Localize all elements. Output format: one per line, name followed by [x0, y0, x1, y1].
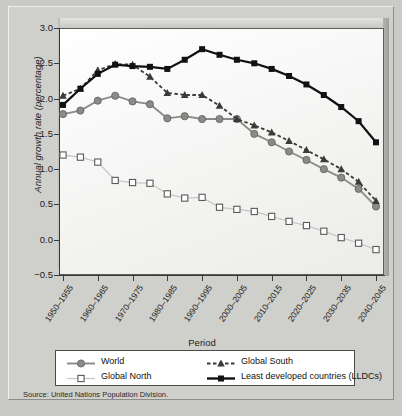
legend-marker-circle-icon	[66, 355, 96, 366]
y-axis-title-main: Annual growth rate	[32, 110, 43, 192]
x-tick-label: 2010–2015	[251, 283, 284, 324]
legend-item-global-south[interactable]: Global South	[206, 355, 293, 366]
series-world	[59, 92, 379, 210]
legend-item-world[interactable]: World	[66, 355, 124, 366]
legend-marker-square-icon	[206, 370, 236, 381]
x-tick	[306, 276, 307, 281]
x-tick	[237, 276, 238, 281]
x-tick-label: 2020–2025	[286, 283, 319, 324]
legend-marker-triangle-icon	[206, 355, 236, 366]
legend: WorldGlobal SouthGlobal NorthLeast devel…	[55, 350, 355, 386]
legend-label: World	[101, 356, 124, 366]
x-tick	[63, 276, 64, 281]
legend-item-least-developed-countries-lldcs[interactable]: Least developed countries (LLDCs)	[206, 370, 382, 381]
x-tick	[98, 276, 99, 281]
legend-marker-square-open-icon	[66, 370, 96, 381]
series-overlay	[59, 28, 384, 275]
series-least-developed-countries-lldcs	[60, 46, 379, 145]
y-tick-label: 0.0	[13, 235, 53, 244]
series-global-north	[60, 152, 379, 253]
series-global-south	[59, 60, 380, 204]
x-tick-label: 1960–1965	[77, 283, 110, 324]
x-tick	[202, 276, 203, 281]
legend-label: Least developed countries (LLDCs)	[241, 371, 382, 381]
figure-card: 3.02.52.01.51.00.50.0−0.5 1950–19551960–…	[8, 6, 394, 400]
source-note: Source: United Nations Population Divisi…	[23, 390, 168, 399]
x-tick-label: 1980–1985	[147, 283, 180, 324]
legend-label: Global North	[101, 371, 152, 381]
legend-label: Global South	[241, 356, 293, 366]
legend-item-global-north[interactable]: Global North	[66, 370, 152, 381]
x-tick	[133, 276, 134, 281]
figure-root: 3.02.52.01.51.00.50.0−0.5 1950–19551960–…	[0, 0, 402, 416]
y-axis-title-unit: (percentage)	[32, 56, 43, 110]
x-tick-label: 1990–1995	[182, 283, 215, 324]
x-axis-title: Period	[9, 337, 395, 348]
y-tick-label: −0.5	[13, 270, 53, 279]
x-tick	[272, 276, 273, 281]
y-tick	[54, 275, 59, 276]
x-tick	[341, 276, 342, 281]
x-tick-label: 1970–1975	[112, 283, 145, 324]
y-axis-title: Annual growth rate (percentage)	[32, 25, 43, 225]
x-tick	[376, 276, 377, 281]
x-tick	[167, 276, 168, 281]
x-axis-line	[59, 275, 385, 276]
x-tick-label: 2030–2035	[321, 283, 354, 324]
x-tick-label: 2040–2045	[356, 283, 389, 324]
x-tick-label: 2000–2005	[216, 283, 249, 324]
